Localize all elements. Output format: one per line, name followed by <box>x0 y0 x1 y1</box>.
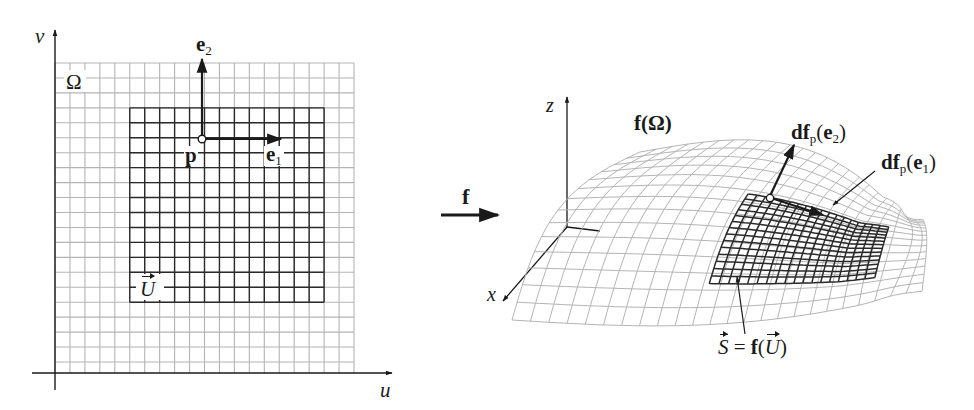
dfp-e1-close: ) <box>929 150 936 174</box>
paren-open: ( <box>758 335 765 359</box>
mesh-line-s <box>585 142 703 324</box>
v-axis-label: v <box>35 26 44 47</box>
e1-label: e1 <box>266 144 282 167</box>
e2-label-sub: 2 <box>205 43 212 58</box>
mesh-line-s <box>875 209 901 301</box>
e2-label: e2 <box>196 34 212 57</box>
surface-f-omega-label: f(Ω) <box>634 113 672 134</box>
subdomain-u-vec: U <box>140 279 155 300</box>
surface-point-fp <box>766 194 773 201</box>
e2-label-base: e <box>196 32 205 56</box>
u-axis-label: u <box>380 380 391 401</box>
subdomain-u-grid <box>130 108 324 302</box>
map-f-label: f <box>462 186 469 208</box>
patch-line-t <box>714 269 877 272</box>
x-axis <box>503 227 567 301</box>
mesh-line-s <box>922 220 927 291</box>
dfp-e1-label: dfp(e1) <box>881 152 936 175</box>
x-axis-label: x <box>487 284 496 304</box>
eq-sign: = <box>729 335 751 359</box>
point-p-label: p <box>185 145 197 166</box>
paren-close: ) <box>780 335 787 359</box>
figure-canvas <box>0 0 974 410</box>
point-p <box>198 135 206 143</box>
y-axis <box>567 227 600 231</box>
omega-label: Ω <box>66 72 82 93</box>
e1-label-sub: 1 <box>275 153 282 168</box>
s-vec: S <box>718 337 729 358</box>
s-pointer-arrow <box>737 277 745 334</box>
parameter-domain-panel <box>32 30 392 390</box>
mesh-line-s <box>859 202 895 305</box>
u-vec: U <box>765 337 780 358</box>
dfp-e1-df: df <box>881 150 900 174</box>
dfp-e1-arg: e <box>913 150 922 174</box>
surface-label-text: f(Ω) <box>634 111 672 135</box>
z-axis-label: z <box>546 95 554 115</box>
subdomain-u-label: U <box>140 279 155 300</box>
patch-line-t <box>709 278 875 284</box>
dfp-e2-label: dfp(e2) <box>791 122 846 145</box>
e1-label-base: e <box>266 142 275 166</box>
s-equals-f-u-label: S = f(U) <box>718 337 787 358</box>
dfp-e2-close: ) <box>839 120 846 144</box>
surface-panel <box>503 97 927 334</box>
dfp-e2-df: df <box>791 120 810 144</box>
mesh-line-s <box>640 140 749 326</box>
dfp-e2-arg: e <box>823 120 832 144</box>
f-symbol: f <box>751 335 758 359</box>
patch-line-t <box>716 261 878 266</box>
